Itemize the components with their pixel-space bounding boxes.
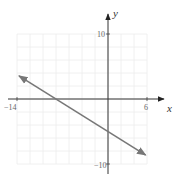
y-max-tick-label: 10 [97,31,105,39]
y-min-tick-label: −10 [94,162,107,170]
x-max-tick-label: 6 [144,104,148,112]
x-min-tick-label: −14 [4,104,17,112]
y-axis-label: y [113,8,118,19]
axes [8,14,164,174]
graph-svg [0,0,177,182]
x-axis-label: x [167,103,172,114]
